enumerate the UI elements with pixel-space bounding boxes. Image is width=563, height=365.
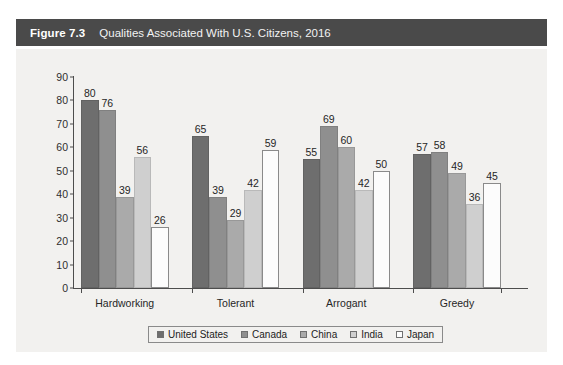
bar[interactable] bbox=[209, 197, 227, 288]
bar[interactable] bbox=[99, 110, 117, 288]
y-axis-tick-label: 30 bbox=[56, 212, 74, 224]
bar-column: 50 bbox=[373, 77, 391, 288]
bar-column: 39 bbox=[209, 77, 227, 288]
bar-value-label: 39 bbox=[212, 184, 224, 196]
bar[interactable] bbox=[116, 197, 134, 288]
bar-group-bars: 8076395626 bbox=[81, 77, 169, 288]
x-axis-tick-mark bbox=[192, 288, 193, 293]
bar-column: 56 bbox=[134, 77, 152, 288]
legend-item[interactable]: China bbox=[300, 329, 337, 340]
y-axis-tick-label: 60 bbox=[56, 141, 74, 153]
bar-column: 29 bbox=[227, 77, 245, 288]
bar-group: 8076395626Hardworking bbox=[81, 77, 169, 288]
bar[interactable] bbox=[466, 204, 484, 288]
bar-group: 5758493645Greedy bbox=[413, 77, 501, 288]
bar[interactable] bbox=[338, 147, 356, 288]
bar-value-label: 58 bbox=[434, 139, 446, 151]
legend-swatch bbox=[396, 331, 403, 338]
bar[interactable] bbox=[373, 171, 391, 288]
bar[interactable] bbox=[262, 150, 280, 288]
bar-value-label: 59 bbox=[265, 137, 277, 149]
bar[interactable] bbox=[303, 159, 321, 288]
figure-header: Figure 7.3 Qualities Associated With U.S… bbox=[16, 19, 547, 46]
bar-column: 59 bbox=[262, 77, 280, 288]
legend-swatch bbox=[157, 331, 164, 338]
bar[interactable] bbox=[192, 136, 210, 288]
bar[interactable] bbox=[413, 154, 431, 288]
x-axis-category-label: Hardworking bbox=[95, 297, 154, 309]
y-axis-tick-label: 0 bbox=[62, 282, 74, 294]
x-axis-tick-mark bbox=[501, 288, 502, 293]
bar-column: 80 bbox=[81, 77, 99, 288]
legend-item[interactable]: Japan bbox=[396, 329, 434, 340]
x-axis-tick-mark bbox=[303, 288, 304, 293]
bar[interactable] bbox=[483, 183, 501, 289]
bar-value-label: 26 bbox=[154, 214, 166, 226]
bar-value-label: 76 bbox=[101, 97, 113, 109]
bar-value-label: 49 bbox=[451, 160, 463, 172]
y-axis-tick-label: 20 bbox=[56, 235, 74, 247]
bar-value-label: 80 bbox=[84, 87, 96, 99]
bar-column: 39 bbox=[116, 77, 134, 288]
bar-column: 60 bbox=[338, 77, 356, 288]
legend-label: Canada bbox=[252, 329, 287, 340]
bar-value-label: 60 bbox=[340, 134, 352, 146]
bar-column: 42 bbox=[355, 77, 373, 288]
y-axis-tick-label: 90 bbox=[56, 71, 74, 83]
y-axis-tick-label: 10 bbox=[56, 259, 74, 271]
bar-column: 55 bbox=[303, 77, 321, 288]
x-axis-category-label: Arrogant bbox=[326, 297, 366, 309]
bar-column: 42 bbox=[244, 77, 262, 288]
bar-group-bars: 6539294259 bbox=[192, 77, 280, 288]
plot-area: 0102030405060708090 8076395626Hardworkin… bbox=[74, 77, 524, 288]
y-axis-tick-label: 50 bbox=[56, 165, 74, 177]
bar[interactable] bbox=[134, 157, 152, 288]
bar[interactable] bbox=[227, 220, 245, 288]
bar-group-bars: 5758493645 bbox=[413, 77, 501, 288]
figure-title: Qualities Associated With U.S. Citizens,… bbox=[99, 27, 330, 39]
bar-column: 49 bbox=[448, 77, 466, 288]
bar[interactable] bbox=[320, 126, 338, 288]
bar-column: 45 bbox=[483, 77, 501, 288]
bar-column: 57 bbox=[413, 77, 431, 288]
legend-item[interactable]: United States bbox=[157, 329, 228, 340]
legend-swatch bbox=[241, 331, 248, 338]
y-axis-tick-label: 70 bbox=[56, 118, 74, 130]
bar-column: 65 bbox=[192, 77, 210, 288]
bar[interactable] bbox=[81, 100, 99, 288]
bar-value-label: 50 bbox=[375, 158, 387, 170]
bar-value-label: 65 bbox=[195, 123, 207, 135]
bar[interactable] bbox=[448, 173, 466, 288]
bar[interactable] bbox=[151, 227, 169, 288]
bar-group: 6539294259Tolerant bbox=[192, 77, 280, 288]
legend-item[interactable]: Canada bbox=[241, 329, 287, 340]
figure-container: Figure 7.3 Qualities Associated With U.S… bbox=[0, 0, 563, 365]
bar-value-label: 36 bbox=[469, 191, 481, 203]
legend-label: China bbox=[311, 329, 337, 340]
bar-group: 5569604250Arrogant bbox=[303, 77, 391, 288]
bar-column: 76 bbox=[99, 77, 117, 288]
bar-value-label: 42 bbox=[247, 177, 259, 189]
chart-panel: 0102030405060708090 8076395626Hardworkin… bbox=[16, 49, 547, 352]
figure-number: Figure 7.3 bbox=[30, 27, 85, 39]
bar-column: 58 bbox=[431, 77, 449, 288]
bar-value-label: 55 bbox=[305, 146, 317, 158]
x-axis-tick-mark bbox=[413, 288, 414, 293]
legend-swatch bbox=[300, 331, 307, 338]
bar-value-label: 39 bbox=[119, 184, 131, 196]
x-axis-category-label: Greedy bbox=[440, 297, 474, 309]
bar[interactable] bbox=[355, 190, 373, 288]
bar-group-bars: 5569604250 bbox=[303, 77, 391, 288]
chart-legend: United StatesCanadaChinaIndiaJapan bbox=[148, 326, 443, 343]
legend-label: India bbox=[361, 329, 383, 340]
y-axis-tick-label: 40 bbox=[56, 188, 74, 200]
bar-value-label: 57 bbox=[416, 141, 428, 153]
x-axis-line bbox=[73, 288, 528, 289]
bar[interactable] bbox=[431, 152, 449, 288]
bar-value-label: 69 bbox=[323, 113, 335, 125]
legend-item[interactable]: India bbox=[350, 329, 383, 340]
bar-value-label: 42 bbox=[358, 177, 370, 189]
x-axis-category-label: Tolerant bbox=[217, 297, 254, 309]
bar-column: 26 bbox=[151, 77, 169, 288]
bar[interactable] bbox=[244, 190, 262, 288]
